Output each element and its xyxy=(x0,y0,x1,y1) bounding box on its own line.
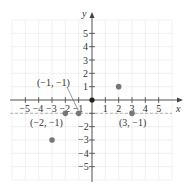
annotation-3-minus1: (3, −1) xyxy=(119,117,146,129)
x-tick-label: −4 xyxy=(33,103,44,114)
y-tick-label: −3 xyxy=(78,134,89,145)
x-axis-label: x xyxy=(175,103,181,114)
y-tick-label: −2 xyxy=(78,121,89,132)
x-tick-label: 5 xyxy=(156,103,161,114)
y-tick-label: 2 xyxy=(83,68,88,79)
y-tick-label: 1 xyxy=(83,81,88,92)
x-tick-label: 4 xyxy=(143,103,148,114)
data-point xyxy=(89,97,94,102)
x-tick-label: 1 xyxy=(103,103,108,114)
y-tick-label: −4 xyxy=(78,148,89,159)
y-tick-label: 5 xyxy=(83,28,88,39)
x-tick-label: 2 xyxy=(116,103,121,114)
data-point xyxy=(129,111,135,117)
y-axis-label: y xyxy=(81,8,87,19)
data-point xyxy=(63,111,69,117)
data-point xyxy=(116,84,122,90)
y-axis-arrow-icon xyxy=(90,12,95,18)
data-point xyxy=(49,137,55,143)
x-tick-label: −3 xyxy=(46,103,57,114)
y-tick-label: −5 xyxy=(78,161,89,172)
y-tick-label: 4 xyxy=(83,41,88,52)
x-tick-label: −5 xyxy=(19,103,30,114)
annotation-minus2-minus1: (−2, −1) xyxy=(30,117,63,129)
y-tick-label: 3 xyxy=(83,55,88,66)
annotation-minus1-minus1: (−1, −1) xyxy=(37,77,70,89)
x-axis-arrow-icon xyxy=(177,98,183,103)
coordinate-plane: −5−4−3−2−11234554321−2−3−4−5 x y (−1, −1… xyxy=(0,0,191,188)
data-point xyxy=(76,111,82,117)
